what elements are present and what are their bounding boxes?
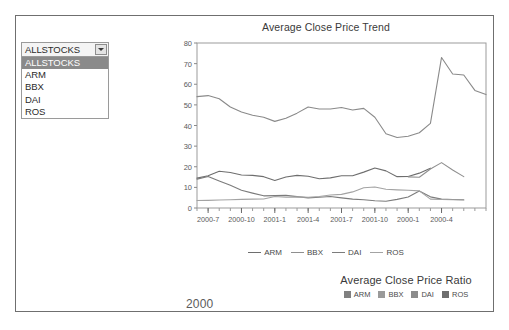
ratio-label-ros: ROS (452, 290, 468, 299)
option-arm[interactable]: ARM (22, 69, 108, 81)
svg-text:20: 20 (184, 163, 192, 172)
svg-text:2000-1: 2000-1 (397, 215, 419, 224)
ratio-swatch-ros (442, 291, 449, 298)
svg-text:50: 50 (184, 101, 192, 110)
svg-text:2001-1: 2001-1 (264, 215, 286, 224)
svg-text:40: 40 (184, 122, 192, 131)
legend-swatch-dai (332, 252, 345, 253)
app-root: ALLSTOCKS ALLSTOCKS ARM BBX DAI ROS Aver… (0, 0, 509, 330)
legend-label-arm: ARM (264, 248, 282, 257)
svg-text:2000-10: 2000-10 (228, 215, 254, 224)
legend-label-bbx: BBX (307, 248, 323, 257)
svg-text:10: 10 (184, 183, 192, 192)
ratio-legend-item-dai[interactable]: DAI (411, 290, 434, 299)
legend-label-ros: ROS (386, 248, 403, 257)
chart-plot-area: 010203040506070802000-72000-102001-12001… (161, 39, 491, 234)
legend-label-dai: DAI (348, 248, 361, 257)
svg-text:2001-4: 2001-4 (297, 215, 319, 224)
stray-year-label: 2000 (186, 297, 214, 311)
average-close-price-ratio-block: Average Close Price Ratio ARM BBX DAI RO… (316, 274, 496, 299)
svg-text:60: 60 (184, 80, 192, 89)
legend-swatch-ros (370, 252, 383, 253)
stock-selector-closed-box[interactable]: ALLSTOCKS (21, 42, 109, 57)
ratio-label-dai: DAI (421, 290, 434, 299)
ratio-swatch-dai (411, 291, 418, 298)
legend-item-dai[interactable]: DAI (332, 248, 361, 257)
chart-svg: 010203040506070802000-72000-102001-12001… (161, 39, 491, 234)
stock-selector-value: ALLSTOCKS (25, 45, 80, 55)
svg-text:80: 80 (184, 39, 192, 48)
stock-selector-option-list[interactable]: ALLSTOCKS ARM BBX DAI ROS (21, 57, 109, 119)
legend-item-ros[interactable]: ROS (370, 248, 403, 257)
ratio-label-bbx: BBX (388, 290, 403, 299)
chart-title: Average Close Price Trend (161, 21, 491, 33)
ratio-legend-item-arm[interactable]: ARM (344, 290, 371, 299)
svg-text:2000-7: 2000-7 (197, 215, 219, 224)
chevron-down-icon[interactable] (95, 44, 107, 55)
ratio-legend-item-ros[interactable]: ROS (442, 290, 468, 299)
legend-swatch-arm (248, 252, 261, 253)
legend-item-arm[interactable]: ARM (248, 248, 282, 257)
svg-text:30: 30 (184, 142, 192, 151)
option-allstocks[interactable]: ALLSTOCKS (22, 57, 108, 69)
ratio-title: Average Close Price Ratio (316, 274, 496, 286)
ratio-legend-item-bbx[interactable]: BBX (378, 290, 403, 299)
legend-swatch-bbx (291, 252, 304, 253)
stock-selector[interactable]: ALLSTOCKS ALLSTOCKS ARM BBX DAI ROS (21, 42, 109, 119)
svg-text:70: 70 (184, 60, 192, 69)
svg-text:2000-4: 2000-4 (430, 215, 452, 224)
ratio-legend: ARM BBX DAI ROS (316, 290, 496, 299)
ratio-label-arm: ARM (354, 290, 371, 299)
chart-line-legend: ARM BBX DAI ROS (161, 248, 491, 257)
ratio-swatch-bbx (378, 291, 385, 298)
ratio-swatch-arm (344, 291, 351, 298)
option-ros[interactable]: ROS (22, 106, 108, 118)
svg-text:2001-7: 2001-7 (330, 215, 352, 224)
option-bbx[interactable]: BBX (22, 81, 108, 93)
svg-text:2001-10: 2001-10 (362, 215, 388, 224)
svg-text:0: 0 (188, 204, 192, 213)
report-panel: ALLSTOCKS ALLSTOCKS ARM BBX DAI ROS Aver… (15, 15, 494, 312)
average-close-price-trend-chart: Average Close Price Trend 01020304050607… (161, 21, 491, 271)
legend-item-bbx[interactable]: BBX (291, 248, 323, 257)
option-dai[interactable]: DAI (22, 94, 108, 106)
